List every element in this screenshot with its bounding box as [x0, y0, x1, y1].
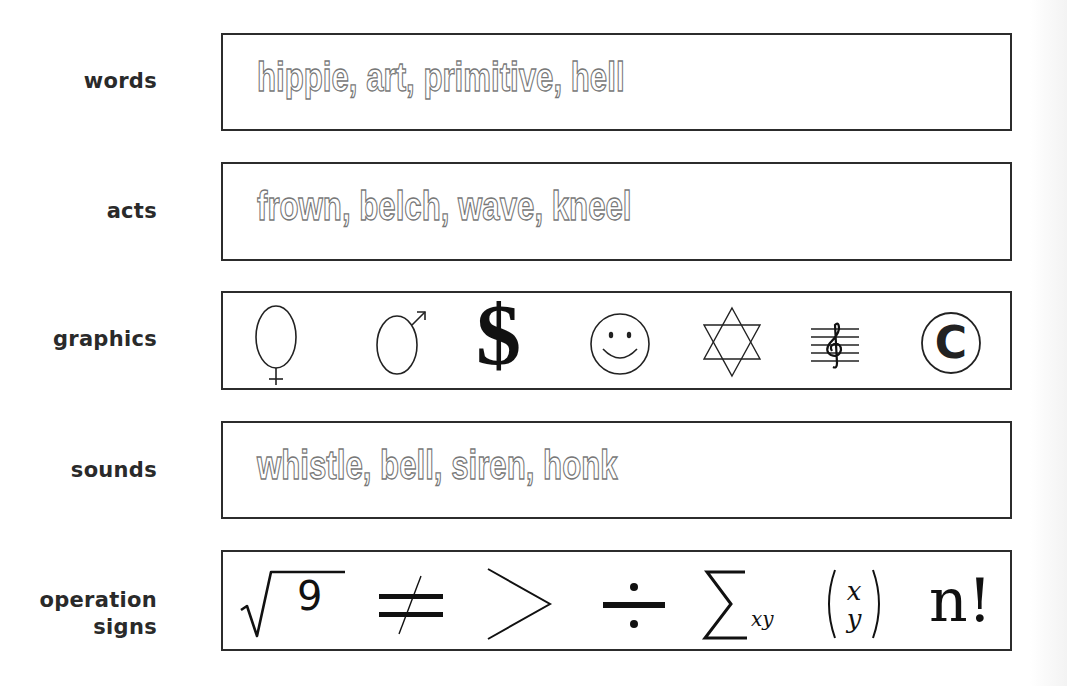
svg-text:x: x: [847, 576, 862, 606]
binomial-icon: x y: [823, 566, 893, 644]
female-symbol-icon: [251, 305, 301, 387]
svg-text:y: y: [846, 604, 862, 634]
summation-icon: xy: [701, 566, 791, 642]
row-label-graphics: graphics: [53, 326, 157, 353]
words-box: hippie, art, primitive, hell: [221, 33, 1012, 131]
sounds-examples: whistle, bell, siren, honk: [257, 443, 618, 488]
copyright-symbol-icon: C: [919, 311, 983, 375]
not-equal-icon: [377, 572, 447, 638]
star-of-david-icon: [697, 305, 767, 379]
row-label-operation: operation: [39, 587, 157, 614]
acts-examples: frown, belch, wave, kneel: [257, 184, 632, 229]
division-icon: [601, 576, 669, 636]
factorial-icon: n!: [929, 562, 992, 638]
svg-text:xy: xy: [751, 607, 774, 631]
male-symbol-icon: [365, 307, 435, 377]
dollar-sign-icon: $: [476, 285, 521, 385]
square-root-icon: 9: [239, 566, 349, 642]
row-label-words: words: [84, 68, 157, 95]
svg-text:9: 9: [297, 573, 322, 619]
sounds-box: whistle, bell, siren, honk: [221, 421, 1012, 519]
row-label-signs: signs: [93, 614, 157, 641]
smiley-face-icon: [587, 311, 653, 377]
row-label-acts: acts: [107, 198, 157, 225]
acts-box: frown, belch, wave, kneel: [221, 162, 1012, 261]
row-label-sounds: sounds: [71, 457, 157, 484]
greater-than-icon: [485, 566, 555, 642]
svg-text:C: C: [935, 317, 967, 368]
operation-signs-box: 9 xy x y: [221, 550, 1012, 651]
treble-clef-staff-icon: [811, 321, 861, 371]
words-examples: hippie, art, primitive, hell: [257, 55, 625, 100]
graphics-box: $ C: [221, 291, 1012, 390]
